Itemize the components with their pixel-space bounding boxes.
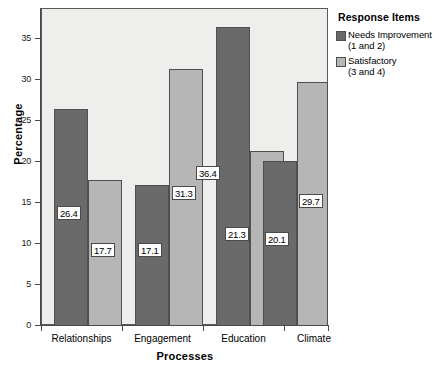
- x-tick-mark-3: [284, 326, 285, 331]
- bar-value-education-needs-improvement: 36.4: [196, 166, 220, 180]
- bar-value-climate-satisfactory: 29.7: [299, 194, 323, 208]
- y-tick-mark-0: [35, 325, 40, 326]
- bar-value-relationships-needs-improvement: 26.4: [57, 206, 81, 220]
- y-tick-label-0: 0: [1, 320, 31, 330]
- legend-label-satisfactory: Satisfactory (3 and 4): [348, 56, 396, 77]
- x-tick-mark-1: [122, 326, 123, 331]
- legend-swatch-needs-improvement: [336, 31, 346, 41]
- x-tick-mark-4: [328, 326, 329, 331]
- legend-entry-satisfactory: Satisfactory (3 and 4): [336, 56, 439, 77]
- legend: Response Items Needs Improvement (1 and …: [336, 8, 439, 82]
- x-tick-label-education: Education: [203, 333, 284, 344]
- y-tick-label-35: 35: [1, 33, 31, 43]
- x-axis-title: Processes: [41, 350, 329, 362]
- bar-value-climate-needs-improvement: 20.1: [265, 232, 289, 246]
- x-tick-label-engagement: Engagement: [122, 333, 203, 344]
- y-axis-line: [40, 8, 41, 326]
- y-tick-mark-25: [35, 120, 40, 121]
- bar-value-education-satisfactory: 21.3: [225, 227, 249, 241]
- y-tick-mark-10: [35, 243, 40, 244]
- y-tick-label-15: 15: [1, 197, 31, 207]
- bar-value-relationships-satisfactory: 17.7: [91, 243, 115, 257]
- bar-value-engagement-needs-improvement: 17.1: [138, 243, 162, 257]
- legend-label-satisfactory-line2: (3 and 4): [348, 67, 396, 78]
- bar-chart: 0 5 10 15 20 25 30 35 Percentage 26.4 17…: [0, 0, 439, 366]
- x-tick-label-climate: Climate: [284, 333, 344, 344]
- y-tick-mark-35: [35, 38, 40, 39]
- legend-label-needs-improvement-line1: Needs Improvement: [348, 29, 432, 40]
- y-tick-mark-15: [35, 202, 40, 203]
- legend-label-needs-improvement-line2: (1 and 2): [348, 41, 432, 52]
- x-tick-label-relationships: Relationships: [41, 333, 122, 344]
- bar-education-needs-improvement: [216, 27, 250, 326]
- x-axis-line: [41, 325, 329, 326]
- y-tick-mark-30: [35, 79, 40, 80]
- legend-entry-needs-improvement: Needs Improvement (1 and 2): [336, 30, 439, 51]
- y-tick-label-5: 5: [1, 279, 31, 289]
- legend-title: Response Items: [338, 11, 439, 23]
- y-tick-mark-20: [35, 161, 40, 162]
- x-tick-mark-2: [203, 326, 204, 331]
- y-tick-mark-5: [35, 284, 40, 285]
- legend-label-needs-improvement: Needs Improvement (1 and 2): [348, 30, 432, 51]
- y-axis-title: Percentage: [12, 79, 24, 189]
- legend-label-satisfactory-line1: Satisfactory: [348, 55, 396, 66]
- bar-value-engagement-satisfactory: 31.3: [172, 186, 196, 200]
- y-tick-label-10: 10: [1, 238, 31, 248]
- x-tick-mark-0: [41, 326, 42, 331]
- legend-swatch-satisfactory: [336, 57, 346, 67]
